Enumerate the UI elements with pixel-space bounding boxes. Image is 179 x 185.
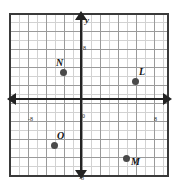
point-label-l: L: [139, 67, 145, 77]
plotted-point-l: [132, 78, 139, 85]
y-axis-label: y: [85, 16, 89, 25]
x-axis-right-arrow-icon: [163, 93, 172, 105]
point-label-m: M: [131, 157, 140, 167]
y-axis-tick-negative-8: -8: [79, 175, 84, 181]
x-axis-line: [14, 98, 168, 100]
x-axis-tick-positive-8: 8: [154, 116, 157, 122]
plotted-point-o: [51, 142, 58, 149]
coordinate-plane-grid: x y -8 8 8 -8 0 N L O M: [9, 13, 169, 177]
point-label-o: O: [57, 131, 64, 141]
y-axis-tick-positive-8: 8: [83, 45, 86, 51]
plotted-point-m: [123, 155, 130, 162]
point-label-n: N: [56, 58, 63, 68]
x-axis-tick-negative-8: -8: [28, 116, 33, 122]
y-axis-line: [80, 19, 82, 175]
x-axis-left-arrow-icon: [7, 93, 16, 105]
plotted-point-n: [60, 69, 67, 76]
origin-label: 0: [82, 113, 85, 119]
